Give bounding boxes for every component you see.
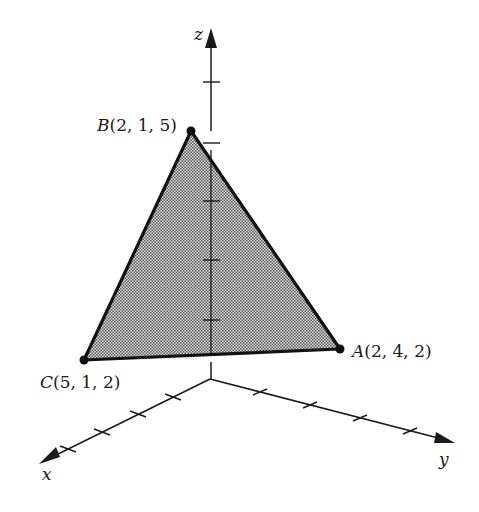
point-a-dot: [336, 345, 345, 354]
y-axis: [210, 379, 455, 443]
point-c-dot: [80, 356, 89, 365]
point-a-label: A(2, 4, 2): [350, 341, 432, 361]
point-a-name: A: [350, 341, 364, 361]
point-c-coords: (5, 1, 2): [53, 372, 120, 392]
x-axis-label: x: [42, 464, 52, 484]
point-b-dot: [187, 127, 196, 136]
point-b-label: B(2, 1, 5): [96, 115, 177, 135]
z-axis-arrow-icon: [205, 28, 217, 48]
y-axis-arrow-icon: [434, 432, 455, 443]
point-a-coords: (2, 4, 2): [364, 341, 431, 361]
point-b-name: B: [96, 115, 110, 135]
point-c-name: C: [40, 372, 53, 392]
y-axis-label: y: [438, 449, 449, 469]
point-b-coords: (2, 1, 5): [110, 115, 177, 135]
x-axis-arrow-icon: [39, 447, 60, 464]
point-c-label: C(5, 1, 2): [40, 372, 120, 392]
triangle-abc: [84, 131, 340, 360]
z-axis-label: z: [193, 24, 204, 44]
diagram-canvas: z x y B(2, 1, 5) A(2, 4, 2) C(5, 1, 2): [0, 0, 479, 512]
